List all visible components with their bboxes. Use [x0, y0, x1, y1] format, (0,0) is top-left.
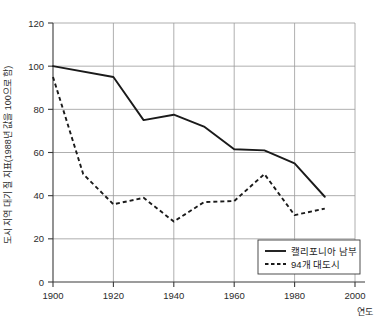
- x-tick-label-1980: 1980: [284, 290, 305, 301]
- line-chart: 120 100 80 60 40 20 0 1900 1920 1940 196…: [0, 0, 390, 323]
- x-axis-title: 연도: [357, 307, 373, 317]
- x-tick-label-1920: 1920: [103, 290, 124, 301]
- legend-label-southern-california: 캘리포니아 남부: [291, 246, 357, 257]
- x-axis-tick-marks: [53, 282, 355, 287]
- y-tick-label-20: 20: [33, 233, 44, 244]
- x-axis-tick-labels: 1900 1920 1940 1960 1980 2000: [42, 290, 365, 301]
- y-tick-label-0: 0: [39, 277, 44, 288]
- legend: 캘리포니아 남부 94개 대도시: [258, 240, 360, 274]
- x-tick-label-2000: 2000: [344, 290, 365, 301]
- y-tick-label-100: 100: [28, 61, 44, 72]
- chart-canvas: 120 100 80 60 40 20 0 1900 1920 1940 196…: [0, 0, 390, 323]
- y-tick-label-80: 80: [33, 104, 44, 115]
- y-axis-tick-labels: 120 100 80 60 40 20 0: [28, 18, 44, 288]
- y-tick-label-120: 120: [28, 18, 44, 29]
- y-axis-title: 도시 지역 대기 질 지표(1988년 값을 100으로 함): [2, 66, 13, 245]
- legend-label-94-metro-areas: 94개 대도시: [291, 259, 340, 270]
- x-tick-label-1940: 1940: [163, 290, 184, 301]
- x-tick-label-1960: 1960: [224, 290, 245, 301]
- x-tick-label-1900: 1900: [42, 290, 63, 301]
- y-axis-tick-marks: [48, 23, 53, 282]
- y-tick-label-40: 40: [33, 190, 44, 201]
- y-tick-label-60: 60: [33, 147, 44, 158]
